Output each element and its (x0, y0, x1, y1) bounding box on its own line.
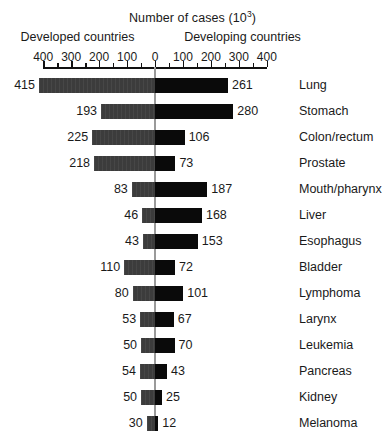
bar-row: 46168Liver (0, 204, 385, 230)
bar-value-developed: 218 (69, 155, 90, 171)
bar-row: 3012Melanoma (0, 412, 385, 438)
category-label: Stomach (299, 103, 348, 119)
group-labels: Developed countries Developing countries (0, 30, 385, 46)
x-axis-major-tick (267, 61, 268, 67)
bar-developed (133, 286, 155, 301)
bar-value-developed: 53 (122, 311, 136, 327)
group-label-developing: Developing countries (155, 30, 330, 44)
bar-developed (140, 312, 155, 327)
chart-title: Number of cases (103) (0, 9, 385, 25)
bar-developed (39, 78, 155, 93)
bar-developed (124, 260, 155, 275)
bar-value-developing: 153 (202, 233, 223, 249)
bar-value-developed: 415 (14, 77, 35, 93)
bar-value-developing: 106 (189, 129, 210, 145)
bar-value-developing: 261 (232, 77, 253, 93)
bar-value-developed: 54 (122, 363, 136, 379)
chart-title-close: ) (252, 11, 256, 25)
bar-value-developing: 280 (237, 103, 258, 119)
category-label: Mouth/pharynx (299, 181, 382, 197)
bar-row: 5367Larynx (0, 308, 385, 334)
bar-value-developed: 50 (123, 337, 137, 353)
x-axis-minor-tick (253, 63, 254, 68)
bar-row: 415261Lung (0, 74, 385, 100)
bar-developing (155, 286, 183, 301)
bar-developed (132, 182, 155, 197)
x-axis-major-tick (183, 61, 184, 67)
category-label: Liver (299, 207, 326, 223)
bar-value-developing: 43 (171, 363, 185, 379)
bar-developing (155, 390, 162, 405)
category-label: Leukemia (299, 337, 353, 353)
bar-value-developing: 70 (179, 337, 193, 353)
bar-row: 5025Kidney (0, 386, 385, 412)
bar-row: 5443Pancreas (0, 360, 385, 386)
bar-developed (94, 156, 155, 171)
bar-value-developed: 110 (100, 259, 120, 275)
bar-developing (155, 182, 207, 197)
x-axis-major-tick (99, 61, 100, 67)
x-axis-minor-tick (85, 63, 86, 68)
chart-title-base: Number of cases (10 (129, 11, 247, 25)
bar-developing (155, 104, 233, 119)
bar-developed (147, 416, 155, 431)
bar-value-developing: 168 (206, 207, 227, 223)
bar-value-developed: 30 (129, 415, 143, 431)
x-axis-minor-tick (113, 63, 114, 68)
group-label-developed: Developed countries (0, 30, 155, 44)
bar-row: 21873Prostate (0, 152, 385, 178)
x-axis-minor-tick (225, 63, 226, 68)
bar-developed (92, 130, 155, 145)
bar-developing (155, 130, 185, 145)
x-axis-major-tick (71, 61, 72, 67)
x-axis-major-tick (239, 61, 240, 67)
category-label: Lung (299, 77, 327, 93)
bar-row: 83187Mouth/pharynx (0, 178, 385, 204)
x-axis-minor-tick (197, 63, 198, 68)
bar-developed (141, 390, 155, 405)
bar-value-developing: 67 (178, 311, 192, 327)
bar-developing (155, 156, 175, 171)
category-label: Bladder (299, 259, 342, 275)
bar-value-developed: 225 (67, 129, 88, 145)
category-label: Lymphoma (299, 285, 360, 301)
bar-value-developed: 193 (76, 103, 97, 119)
bar-developed (142, 208, 155, 223)
x-axis-major-tick (127, 61, 128, 67)
category-label: Colon/rectum (299, 129, 373, 145)
x-axis-minor-tick (141, 63, 142, 68)
bar-row: 80101Lymphoma (0, 282, 385, 308)
category-label: Prostate (299, 155, 346, 171)
bar-developed (101, 104, 155, 119)
bar-row: 5070Leukemia (0, 334, 385, 360)
bar-developing (155, 78, 228, 93)
x-axis-major-tick (43, 61, 44, 67)
bar-developed (143, 234, 155, 249)
bar-value-developing: 72 (179, 259, 193, 275)
bar-row: 11072Bladder (0, 256, 385, 282)
bar-developed (141, 338, 155, 353)
x-axis-minor-tick (57, 63, 58, 68)
bar-row: 225106Colon/rectum (0, 126, 385, 152)
bar-developing (155, 208, 202, 223)
bar-developing (155, 416, 158, 431)
x-axis-major-tick (211, 61, 212, 67)
bar-value-developed: 43 (125, 233, 139, 249)
bar-value-developing: 73 (179, 155, 193, 171)
x-axis: 4003002001000100200300400 (0, 50, 385, 74)
x-axis-minor-tick (169, 63, 170, 68)
bar-value-developing: 12 (162, 415, 176, 431)
category-label: Esophagus (299, 233, 362, 249)
category-label: Pancreas (299, 363, 352, 379)
bar-value-developed: 83 (114, 181, 128, 197)
category-label: Melanoma (299, 415, 357, 431)
bar-value-developed: 46 (124, 207, 138, 223)
bar-value-developed: 80 (115, 285, 129, 301)
bar-value-developing: 25 (166, 389, 180, 405)
bar-value-developed: 50 (123, 389, 137, 405)
bar-value-developing: 187 (211, 181, 232, 197)
bar-developing (155, 338, 175, 353)
bar-developing (155, 234, 198, 249)
bar-developing (155, 260, 175, 275)
bar-row: 43153Esophagus (0, 230, 385, 256)
